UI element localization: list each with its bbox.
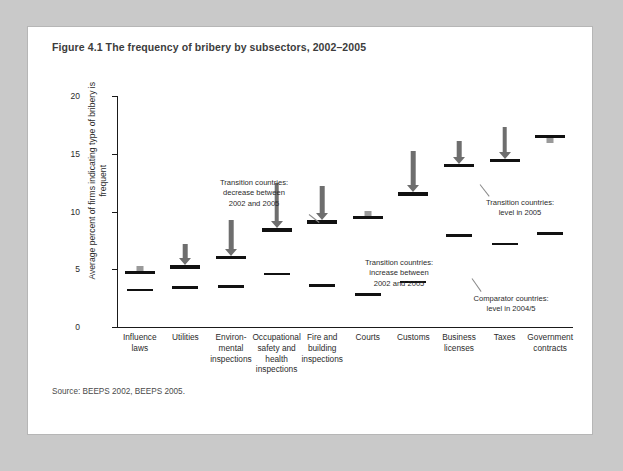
y-tick-label: 15	[50, 149, 80, 159]
comparator-marker	[537, 232, 563, 235]
decrease-arrow	[179, 244, 191, 265]
decrease-arrow	[407, 151, 419, 192]
comparator-marker	[355, 293, 381, 296]
comparator-marker	[446, 234, 472, 237]
transition-2005-marker	[262, 228, 292, 231]
arrow-head	[453, 157, 465, 164]
y-tick-label: 10	[50, 207, 80, 217]
comparator-marker	[264, 273, 290, 276]
transition-2005-marker	[490, 159, 520, 162]
transition-2005-marker	[307, 220, 337, 223]
comparator-marker	[218, 285, 244, 288]
annotation-transition-leader	[480, 184, 490, 196]
decrease-arrow	[499, 127, 511, 159]
arrow-shaft	[183, 244, 188, 259]
arrow-head	[271, 221, 283, 228]
y-tick-label: 0	[50, 322, 80, 332]
y-tick-label: 20	[50, 91, 80, 101]
arrow-shaft	[457, 141, 462, 158]
annotation-decrease-note: Transition countries: decrease between 2…	[202, 178, 306, 209]
small-increase-marker	[364, 211, 371, 216]
arrow-head	[316, 213, 328, 220]
arrow-head	[179, 258, 191, 265]
transition-2005-marker	[170, 265, 200, 268]
decrease-arrow	[453, 141, 465, 164]
comparator-marker	[492, 243, 518, 246]
source-note: Source: BEEPS 2002, BEEPS 2005.	[52, 387, 185, 396]
arrow-head	[225, 249, 237, 256]
comparator-marker	[172, 286, 198, 289]
figure-container: Figure 4.1 The frequency of bribery by s…	[27, 26, 593, 435]
chart-plot-area: Average percent of firms indicating type…	[87, 72, 576, 362]
comparator-marker	[127, 289, 153, 292]
y-tick-mark	[112, 269, 117, 270]
annotation-transition-level-note: Transition countries: level in 2005	[464, 198, 576, 219]
y-tick-mark	[112, 212, 117, 213]
decrease-arrow	[225, 220, 237, 256]
y-tick-mark	[112, 327, 117, 328]
y-tick-mark	[112, 96, 117, 97]
x-axis-category-label: Government contracts	[522, 332, 578, 354]
arrow-shaft	[320, 186, 325, 214]
transition-2005-marker	[216, 256, 246, 259]
annotation-comparator-leader	[472, 278, 482, 292]
arrow-shaft	[229, 220, 234, 250]
annotation-increase-note: Transition countries: increase between 2…	[344, 258, 454, 289]
arrow-shaft	[411, 151, 416, 186]
transition-2005-marker	[398, 192, 428, 195]
transition-2005-marker	[444, 164, 474, 167]
decrease-arrow	[316, 186, 328, 220]
comparator-marker	[309, 284, 335, 287]
transition-2005-marker	[353, 216, 383, 219]
arrow-head	[407, 185, 419, 192]
small-decrease-marker	[547, 138, 554, 143]
x-axis-line	[117, 327, 573, 328]
transition-2005-marker	[125, 271, 155, 274]
arrow-head	[499, 152, 511, 159]
y-tick-mark	[112, 154, 117, 155]
y-axis-title: Average percent of firms indicating type…	[87, 66, 108, 296]
arrow-shaft	[502, 127, 507, 153]
small-increase-marker	[136, 266, 143, 271]
figure-title: Figure 4.1 The frequency of bribery by s…	[52, 41, 366, 53]
y-axis-line	[117, 96, 118, 327]
y-tick-label: 5	[50, 264, 80, 274]
annotation-comparator-level-note: Comparator countries: level in 2004/5	[449, 294, 573, 315]
